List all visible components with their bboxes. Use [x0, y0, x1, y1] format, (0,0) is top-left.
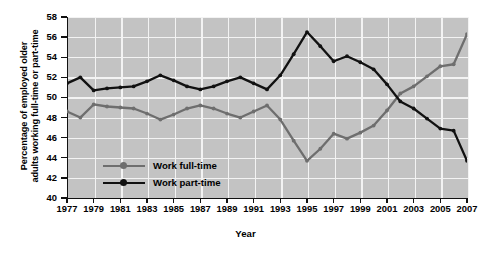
- data-point: [278, 73, 282, 77]
- data-point: [398, 100, 402, 104]
- data-point: [332, 59, 336, 63]
- y-axis-tick: [61, 36, 67, 37]
- data-point: [118, 85, 122, 89]
- y-axis-tick: [61, 97, 67, 98]
- data-point: [372, 124, 376, 128]
- data-point: [265, 88, 269, 92]
- y-axis-tick-label: 50: [31, 91, 57, 102]
- data-point: [92, 103, 96, 107]
- y-axis-tick: [61, 16, 67, 17]
- data-point: [305, 159, 309, 163]
- data-point: [398, 92, 402, 96]
- data-point: [318, 44, 322, 48]
- data-point: [425, 74, 429, 78]
- data-point: [238, 116, 242, 120]
- y-axis-tick: [61, 57, 67, 58]
- data-point: [385, 109, 389, 113]
- data-point: [118, 106, 122, 110]
- x-axis-tick-label: 2007: [447, 203, 487, 214]
- legend-item-full-time: Work full-time: [103, 157, 221, 174]
- data-point: [225, 112, 229, 116]
- y-axis-tick-label: 46: [31, 132, 57, 143]
- gridline-vertical: [468, 17, 469, 198]
- data-point: [145, 79, 149, 83]
- data-point: [278, 118, 282, 122]
- data-point: [252, 110, 256, 114]
- y-axis-tick: [61, 157, 67, 158]
- data-point: [158, 73, 162, 77]
- data-point: [198, 88, 202, 92]
- data-point: [185, 84, 189, 88]
- data-point: [358, 131, 362, 135]
- data-point: [145, 112, 149, 116]
- data-point: [105, 105, 109, 109]
- data-point: [225, 79, 229, 83]
- data-point: [358, 60, 362, 64]
- data-point: [385, 82, 389, 86]
- data-point: [372, 67, 376, 71]
- legend-item-part-time: Work part-time: [103, 174, 221, 191]
- y-axis-tick-label: 58: [31, 11, 57, 22]
- data-point: [292, 52, 296, 56]
- data-point: [452, 62, 456, 66]
- data-point: [292, 139, 296, 143]
- data-point: [158, 118, 162, 122]
- data-point: [305, 30, 309, 34]
- data-point: [212, 84, 216, 88]
- data-point: [438, 127, 442, 131]
- y-axis-tick-label: 44: [31, 152, 57, 163]
- data-point: [425, 117, 429, 121]
- data-point: [345, 137, 349, 141]
- y-axis-tick: [61, 177, 67, 178]
- data-point: [345, 54, 349, 58]
- data-point: [172, 113, 176, 117]
- y-axis-tick: [61, 137, 67, 138]
- x-axis-title: Year: [0, 228, 491, 239]
- y-axis-tick: [61, 77, 67, 78]
- y-axis-tick-label: 40: [31, 192, 57, 203]
- data-point: [452, 129, 456, 133]
- y-axis-tick-label: 56: [31, 31, 57, 42]
- series-line: [67, 34, 467, 161]
- series-line: [67, 32, 467, 161]
- data-point: [198, 104, 202, 108]
- legend-swatch-full-time: [103, 160, 145, 172]
- data-point: [185, 107, 189, 111]
- data-point: [172, 78, 176, 82]
- data-point: [78, 116, 82, 120]
- y-axis-tick-label: 54: [31, 51, 57, 62]
- data-point: [412, 84, 416, 88]
- data-point: [212, 107, 216, 111]
- legend-swatch-part-time: [103, 177, 145, 189]
- data-point: [265, 104, 269, 108]
- data-point: [252, 81, 256, 85]
- data-point: [412, 107, 416, 111]
- legend-label-full-time: Work full-time: [153, 160, 217, 171]
- data-point: [332, 132, 336, 136]
- data-point: [132, 107, 136, 111]
- data-point: [238, 75, 242, 79]
- data-point: [318, 147, 322, 151]
- y-axis-tick-label: 42: [31, 172, 57, 183]
- legend-label-part-time: Work part-time: [153, 177, 221, 188]
- data-point: [105, 86, 109, 90]
- y-axis-title-line-1: Percentage of employed older: [19, 6, 30, 206]
- y-axis-tick-label: 52: [31, 71, 57, 82]
- chart-legend: Work full-time Work part-time: [103, 157, 221, 191]
- data-point: [78, 75, 82, 79]
- data-point: [92, 89, 96, 93]
- y-axis-tick: [61, 117, 67, 118]
- data-point: [438, 64, 442, 68]
- chart-figure: Percentage of employed older adults work…: [0, 0, 491, 254]
- data-point: [132, 84, 136, 88]
- y-axis-tick-label: 48: [31, 112, 57, 123]
